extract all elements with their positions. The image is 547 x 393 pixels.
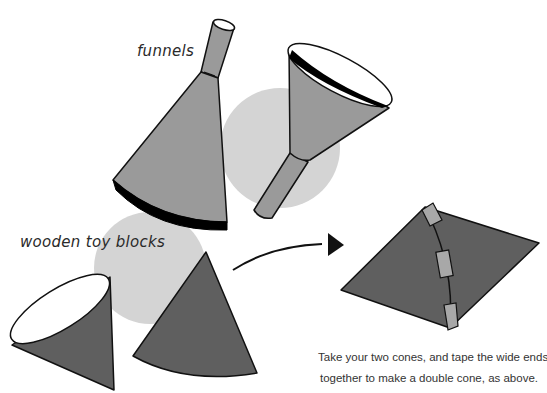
caption-line-2: together to make a double cone, as above…	[318, 368, 540, 389]
funnels-label: funnels	[137, 42, 194, 60]
double-cone	[341, 203, 539, 330]
illustration-canvas	[0, 0, 547, 393]
caption-line-1: Take your two cones, and tape the wide e…	[318, 347, 540, 368]
caption: Take your two cones, and tape the wide e…	[318, 347, 540, 389]
arrow-icon	[233, 233, 344, 270]
wooden-cone-open	[1, 262, 119, 390]
wooden-blocks-label: wooden toy blocks	[20, 233, 165, 251]
